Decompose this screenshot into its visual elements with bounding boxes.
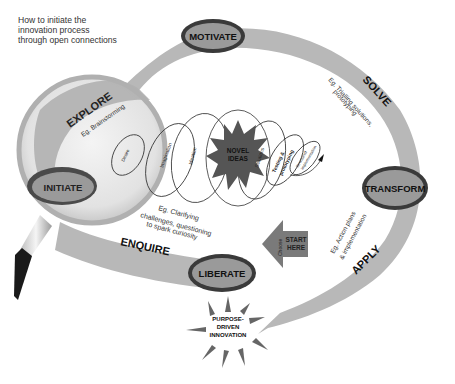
outcome-label-line3: INNOVATION bbox=[210, 332, 247, 338]
start-label-line2: HERE bbox=[287, 244, 306, 251]
innovation-cycle-diagram: MOTIVATE INITIATE TRANSFORM LIBERATE EXP… bbox=[0, 0, 455, 384]
title-line-3: through open connections bbox=[18, 35, 158, 45]
spiral-arrowhead-icon bbox=[318, 154, 324, 162]
title-line-2: innovation process bbox=[18, 25, 158, 35]
outcome-label-line1: PURPOSE- bbox=[212, 316, 243, 322]
start-label-line1: START bbox=[285, 236, 306, 243]
start-arrow-side-label: Choose bbox=[277, 239, 283, 256]
spiral-label-ideation: Ideation bbox=[187, 146, 197, 165]
center-label-line2: IDEAS bbox=[228, 155, 249, 162]
magnifier-handle bbox=[14, 215, 52, 300]
diagram-title: How to initiate the innovation process t… bbox=[18, 15, 158, 45]
center-label-line1: NOVEL bbox=[227, 147, 249, 154]
stage-label-transform: TRANSFORM bbox=[365, 183, 426, 194]
stage-label-motivate: MOTIVATE bbox=[189, 31, 237, 42]
title-line-1: How to initiate the bbox=[18, 15, 158, 25]
outcome-label-line2: DRIVEN bbox=[217, 324, 240, 330]
stage-label-initiate: INITIATE bbox=[44, 182, 83, 193]
stage-label-liberate: LIBERATE bbox=[199, 268, 246, 279]
